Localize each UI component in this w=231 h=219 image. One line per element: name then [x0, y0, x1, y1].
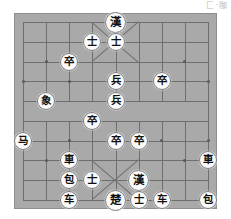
piece-glyph: 卒	[85, 113, 100, 128]
piece-general-chu[interactable]: 楚	[105, 190, 126, 211]
piece-chariot-che[interactable]: 车	[153, 191, 171, 209]
star-point-marker	[68, 139, 71, 142]
star-point-marker	[207, 139, 210, 142]
piece-soldier-bing[interactable]: 兵	[107, 72, 125, 90]
watermark-text: 匚·咖	[198, 0, 228, 11]
xiangqi-app: 匚·咖 漢士士卒兵卒象兵卒马卒卒車車包士漢车楚士车包	[0, 0, 231, 219]
piece-glyph: 漢	[106, 13, 124, 31]
piece-glyph: 士	[85, 34, 100, 49]
piece-glyph: 兵	[108, 94, 123, 109]
piece-advisor[interactable]: 士	[83, 33, 101, 51]
piece-glyph: 马	[15, 133, 30, 148]
piece-glyph: 楚	[106, 191, 124, 209]
piece-glyph: 包	[200, 192, 215, 207]
grid-line-vertical	[208, 22, 209, 200]
grid-line-vertical	[23, 22, 24, 200]
piece-glyph: 卒	[154, 74, 169, 89]
piece-pawn-zu[interactable]: 卒	[107, 132, 125, 150]
star-point-marker	[183, 60, 186, 63]
piece-glyph: 车	[62, 192, 77, 207]
piece-glyph: 車	[200, 153, 215, 168]
piece-horse-ma[interactable]: 马	[14, 132, 32, 150]
piece-pawn-zu[interactable]: 卒	[83, 112, 101, 130]
star-point-marker	[160, 139, 163, 142]
piece-glyph: 车	[154, 192, 169, 207]
piece-advisor[interactable]: 士	[83, 171, 101, 189]
piece-advisor[interactable]: 士	[130, 191, 148, 209]
grid-line-vertical	[162, 121, 163, 201]
piece-general-han-bottom[interactable]: 漢	[128, 170, 149, 191]
piece-glyph: 士	[131, 192, 146, 207]
piece-glyph: 兵	[108, 74, 123, 89]
piece-cannon-pao[interactable]: 包	[199, 191, 217, 209]
star-point-marker	[22, 80, 25, 83]
piece-pawn-zu[interactable]: 卒	[60, 53, 78, 71]
piece-soldier-bing[interactable]: 兵	[107, 92, 125, 110]
piece-pawn-zu[interactable]: 卒	[130, 132, 148, 150]
piece-glyph: 漢	[130, 171, 148, 189]
star-point-marker	[183, 159, 186, 162]
board-grid: 漢士士卒兵卒象兵卒马卒卒車車包士漢车楚士车包	[23, 22, 208, 200]
piece-glyph: 士	[85, 173, 100, 188]
piece-cannon-pao[interactable]: 包	[60, 171, 78, 189]
piece-glyph: 車	[62, 153, 77, 168]
piece-glyph: 象	[39, 94, 54, 109]
piece-general-han-top[interactable]: 漢	[105, 12, 126, 33]
piece-glyph: 包	[62, 173, 77, 188]
piece-advisor[interactable]: 士	[107, 33, 125, 51]
board-surface: 漢士士卒兵卒象兵卒马卒卒車車包士漢车楚士车包	[15, 14, 216, 208]
star-point-marker	[68, 80, 71, 83]
piece-chariot-ju[interactable]: 車	[199, 151, 217, 169]
grid-line-vertical	[139, 22, 140, 102]
piece-elephant-xiang[interactable]: 象	[37, 92, 55, 110]
piece-glyph: 士	[108, 34, 123, 49]
piece-chariot-ju[interactable]: 車	[60, 151, 78, 169]
piece-glyph: 卒	[108, 133, 123, 148]
xiangqi-board[interactable]: 漢士士卒兵卒象兵卒马卒卒車車包士漢车楚士车包	[14, 13, 217, 209]
star-point-marker	[45, 60, 48, 63]
piece-chariot-che[interactable]: 车	[60, 191, 78, 209]
piece-glyph: 卒	[131, 133, 146, 148]
piece-pawn-zu[interactable]: 卒	[153, 72, 171, 90]
piece-glyph: 卒	[62, 54, 77, 69]
grid-line-vertical	[162, 22, 163, 102]
star-point-marker	[45, 159, 48, 162]
star-point-marker	[207, 80, 210, 83]
